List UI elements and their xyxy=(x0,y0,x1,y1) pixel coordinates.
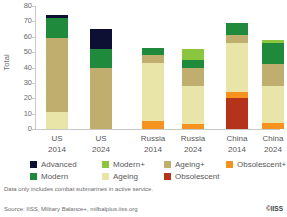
legend-item-obsolescent-plus[interactable]: Obsolescent+ xyxy=(226,160,286,169)
bar-segment-ageing-plus xyxy=(142,55,164,63)
x-label-line: 2014 xyxy=(34,145,80,156)
legend-swatch-icon xyxy=(164,173,171,180)
y-tick-70: 70 xyxy=(12,18,32,26)
copyright-text: ©IISS xyxy=(266,205,283,212)
bar-segment-modern xyxy=(142,48,164,56)
legend-swatch-icon xyxy=(102,161,109,168)
bar-russia-2014 xyxy=(142,48,164,129)
bar-russia-2024 xyxy=(182,49,204,129)
y-tick-80: 80 xyxy=(12,2,32,10)
bar-segment-ageing-plus xyxy=(226,35,248,43)
stacked-bar-chart: Total 01020304050607080 US2014US2024Russ… xyxy=(0,0,287,217)
x-label-line: China xyxy=(250,134,287,145)
bar-segment-ageing xyxy=(262,86,284,123)
legend-swatch-icon xyxy=(30,173,37,180)
bar-segment-ageing xyxy=(226,43,248,92)
legend-item-modern[interactable]: Modern xyxy=(30,172,68,181)
legend-swatch-icon xyxy=(164,161,171,168)
bar-us-2024 xyxy=(90,29,112,129)
legend-label: Obsolescent xyxy=(175,172,219,181)
legend-label: Ageing xyxy=(113,172,138,181)
y-tick-10: 10 xyxy=(12,110,32,118)
legend-item-ageing-plus[interactable]: Ageing+ xyxy=(164,160,205,169)
bar-segment-ageing xyxy=(46,112,68,129)
y-axis-tick-labels: 01020304050607080 xyxy=(12,6,32,130)
bar-segment-ageing-plus xyxy=(46,38,68,112)
x-label-line: US xyxy=(34,134,80,145)
footnote-text: Data only includes combat submarines in … xyxy=(4,186,154,194)
y-tick-20: 20 xyxy=(12,95,32,103)
bar-segment-modern-plus xyxy=(182,49,204,60)
bar-segment-modern xyxy=(46,18,68,39)
bar-segment-modern xyxy=(90,49,112,67)
bar-china-2024 xyxy=(262,40,284,129)
bar-segment-ageing-plus xyxy=(90,68,112,130)
y-tick-50: 50 xyxy=(12,48,32,56)
bar-china-2014 xyxy=(226,23,248,129)
y-tick-60: 60 xyxy=(12,33,32,41)
legend-item-ageing[interactable]: Ageing xyxy=(102,172,138,181)
legend-item-obsolescent[interactable]: Obsolescent xyxy=(164,172,219,181)
legend-label: Modern xyxy=(41,172,68,181)
x-label-line: 2024 xyxy=(250,145,287,156)
legend-swatch-icon xyxy=(30,161,37,168)
bar-group xyxy=(36,6,280,129)
x-label-russia-2024: Russia2024 xyxy=(170,134,216,155)
chart-legend: AdvancedModern+Ageing+Obsolescent+Modern… xyxy=(30,160,285,184)
bar-segment-ageing-plus xyxy=(262,64,284,86)
y-tick-40: 40 xyxy=(12,64,32,72)
x-axis-category-labels: US2014US2024Russia2014Russia2024China201… xyxy=(36,134,280,158)
bar-segment-ageing-plus xyxy=(182,68,204,86)
bar-segment-modern xyxy=(262,43,284,65)
x-label-line: 2024 xyxy=(78,145,124,156)
bar-segment-modern xyxy=(182,60,204,68)
x-label-line: US xyxy=(78,134,124,145)
x-label-us-2024: US2024 xyxy=(78,134,124,155)
bar-segment-obsolescent-plus xyxy=(182,124,204,129)
bar-segment-obsolescent-plus xyxy=(142,121,164,129)
y-tick-30: 30 xyxy=(12,79,32,87)
bar-segment-ageing xyxy=(142,63,164,121)
legend-item-modern-plus[interactable]: Modern+ xyxy=(102,160,145,169)
legend-swatch-icon xyxy=(226,161,233,168)
x-label-line: 2024 xyxy=(170,145,216,156)
legend-label: Modern+ xyxy=(113,160,145,169)
legend-label: Ageing+ xyxy=(175,160,205,169)
x-label-china-2024: China2024 xyxy=(250,134,287,155)
bar-segment-advanced xyxy=(90,29,112,49)
bar-segment-ageing xyxy=(182,86,204,124)
bar-segment-obsolescent xyxy=(226,98,248,129)
legend-item-advanced[interactable]: Advanced xyxy=(30,160,77,169)
x-label-us-2014: US2014 xyxy=(34,134,80,155)
y-axis-label: Total xyxy=(2,33,11,93)
bar-us-2014 xyxy=(46,15,68,129)
y-tick-0: 0 xyxy=(12,125,32,133)
legend-swatch-icon xyxy=(102,173,109,180)
source-text: Source: IISS, Military Balance+, milbalp… xyxy=(4,206,138,212)
bar-segment-obsolescent-plus xyxy=(262,123,284,129)
plot-area: Total 01020304050607080 US2014US2024Russ… xyxy=(0,6,287,146)
bar-segment-modern xyxy=(226,23,248,35)
legend-label: Advanced xyxy=(41,160,77,169)
legend-label: Obsolescent+ xyxy=(237,160,286,169)
x-label-line: Russia xyxy=(170,134,216,145)
